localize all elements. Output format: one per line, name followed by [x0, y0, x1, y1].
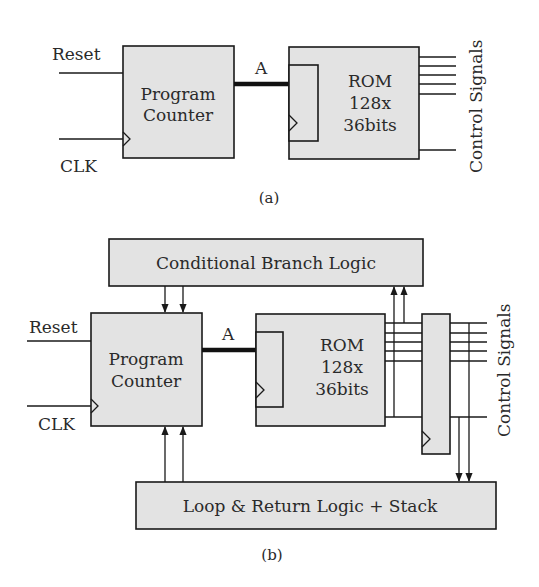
- rom-label-line2-a: 128x: [349, 93, 391, 113]
- control-signals-label-a: Control Signals: [466, 40, 486, 173]
- caption-b: (b): [261, 546, 282, 564]
- rom-output-wires-b: [385, 323, 422, 417]
- rom-label-line2-b: 128x: [321, 357, 363, 377]
- microcode-sequencer-diagram: Reset CLK Program Counter A ROM 128x 36b…: [0, 0, 539, 587]
- reset-label-a: Reset: [52, 44, 101, 64]
- rom-input-register-b: [256, 332, 283, 407]
- pc-label-line2-a: Counter: [143, 105, 214, 125]
- rom-label-line1-a: ROM: [348, 71, 392, 91]
- rom-label-line3-a: 36bits: [343, 115, 397, 135]
- pc-label-line1-a: Program: [140, 84, 215, 104]
- pc-label-line1-b: Program: [108, 349, 183, 369]
- pipeline-register-block: [422, 314, 450, 454]
- program-counter-block-b: [91, 313, 202, 426]
- reset-label-b: Reset: [29, 317, 78, 337]
- clk-label-b: CLK: [38, 414, 75, 434]
- figure-a: Reset CLK Program Counter A ROM 128x 36b…: [52, 40, 486, 207]
- rom-label-line3-b: 36bits: [315, 379, 369, 399]
- branch-logic-label: Conditional Branch Logic: [156, 253, 376, 273]
- rom-input-register-a: [289, 65, 318, 141]
- control-signal-wires-a: [419, 57, 456, 150]
- clk-label-a: CLK: [60, 156, 97, 176]
- bus-label-b: A: [221, 324, 235, 344]
- figure-b: Conditional Branch Logic Reset CLK Progr…: [27, 239, 514, 564]
- control-signals-label-b: Control Signals: [494, 304, 514, 437]
- caption-a: (a): [259, 189, 280, 207]
- loop-logic-label: Loop & Return Logic + Stack: [183, 496, 438, 516]
- bus-label-a: A: [254, 58, 268, 78]
- rom-label-line1-b: ROM: [320, 335, 364, 355]
- pc-label-line2-b: Counter: [111, 371, 182, 391]
